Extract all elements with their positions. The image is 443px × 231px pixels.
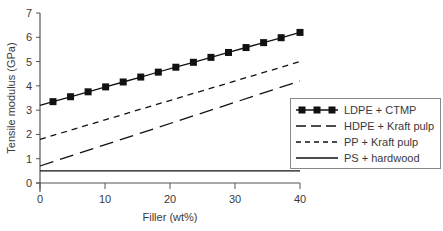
x-tick-label: 20 xyxy=(164,193,176,205)
x-tick-label: 10 xyxy=(99,193,111,205)
legend-marker xyxy=(329,107,336,114)
data-marker xyxy=(102,83,109,90)
y-tick-label: 2 xyxy=(26,128,32,140)
legend-marker xyxy=(299,107,306,114)
data-marker xyxy=(260,39,267,46)
line-chart: 01234567010203040 LDPE + CTMPHDPE + Kraf… xyxy=(0,0,443,231)
legend-label: LDPE + CTMP xyxy=(344,104,416,116)
y-tick-label: 6 xyxy=(26,31,32,43)
data-marker xyxy=(172,64,179,71)
legend-marker xyxy=(314,107,321,114)
x-axis-label: Filler (wt%) xyxy=(143,211,198,223)
legend-label: HDPE + Kraft pulp xyxy=(344,120,434,132)
legend-label: PP + Kraft pulp xyxy=(344,136,418,148)
series-group xyxy=(40,29,304,171)
x-tick-label: 40 xyxy=(294,193,306,205)
data-marker xyxy=(155,69,162,76)
y-axis-label: Tensile modulus (GPa) xyxy=(5,42,17,153)
data-marker xyxy=(243,44,250,51)
x-tick-label: 30 xyxy=(229,193,241,205)
y-tick-label: 7 xyxy=(26,7,32,19)
y-tick-label: 1 xyxy=(26,153,32,165)
data-marker xyxy=(67,93,74,100)
axes: 01234567010203040 xyxy=(26,7,306,205)
x-tick-label: 0 xyxy=(37,193,43,205)
y-tick-label: 3 xyxy=(26,104,32,116)
data-marker xyxy=(297,29,304,36)
y-tick-label: 5 xyxy=(26,56,32,68)
y-tick-label: 4 xyxy=(26,80,32,92)
data-marker xyxy=(50,98,57,105)
data-marker xyxy=(278,34,285,41)
data-marker xyxy=(225,49,232,56)
series-line-2 xyxy=(40,62,300,140)
data-marker xyxy=(85,88,92,95)
data-marker xyxy=(190,59,197,66)
data-marker xyxy=(120,78,127,85)
data-marker xyxy=(207,54,214,61)
y-tick-label: 0 xyxy=(26,177,32,189)
data-marker xyxy=(137,74,144,81)
legend: LDPE + CTMPHDPE + Kraft pulpPP + Kraft p… xyxy=(291,99,441,169)
legend-label: PS + hardwood xyxy=(344,152,420,164)
series-line-1 xyxy=(40,81,300,166)
